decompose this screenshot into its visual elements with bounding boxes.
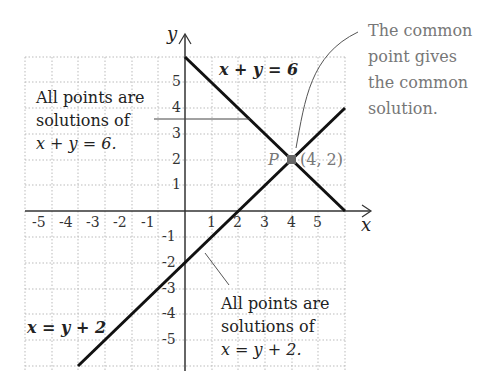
y-tick: -3: [162, 280, 176, 296]
note-text: solutions of: [36, 109, 145, 132]
note-text: the common: [368, 70, 472, 96]
note-line-x-eq-y-plus-2: All points are solutions of x = y + 2.: [221, 292, 330, 361]
x-tick: 2: [233, 214, 242, 230]
y-tick: 1: [172, 176, 181, 192]
note-line-x-plus-y: All points are solutions of x + y = 6.: [36, 86, 145, 155]
equation-label-2: x = y + 2: [27, 316, 106, 339]
note-text: point gives: [368, 44, 472, 70]
y-tick: -2: [162, 254, 176, 270]
y-tick: -5: [162, 331, 176, 347]
point-name: P: [268, 148, 279, 171]
x-tick: 3: [260, 214, 269, 230]
note-common-point: The common point gives the common soluti…: [368, 18, 472, 122]
note-text: x = y + 2.: [221, 338, 330, 361]
point-p-marker: [287, 155, 296, 164]
x-tick: 5: [313, 214, 322, 230]
leader-line-3: [296, 32, 358, 148]
x-axis-label: x: [361, 213, 371, 236]
x-tick: 4: [287, 214, 296, 230]
note-text: solution.: [368, 96, 472, 122]
y-tick: -1: [162, 228, 176, 244]
equation-label-1: x + y = 6: [219, 58, 298, 81]
leader-line-2: [205, 253, 229, 285]
x-tick: -1: [141, 214, 155, 230]
y-tick: -4: [162, 305, 176, 321]
x-tick: 1: [207, 214, 216, 230]
x-tick: -4: [59, 214, 73, 230]
y-tick: 4: [172, 99, 181, 115]
x-tick: -2: [113, 214, 127, 230]
x-tick: -3: [86, 214, 100, 230]
point-coords: (4, 2): [300, 148, 343, 171]
y-tick: 2: [172, 151, 181, 167]
note-text: All points are: [36, 86, 145, 109]
y-tick: 5: [172, 73, 181, 89]
note-text: solutions of: [221, 315, 330, 338]
x-tick: -5: [32, 214, 46, 230]
note-text: All points are: [221, 292, 330, 315]
note-text: The common: [368, 18, 472, 44]
y-tick: 3: [172, 125, 181, 141]
note-text: x + y = 6.: [36, 132, 145, 155]
y-axis-label: y: [167, 22, 177, 45]
